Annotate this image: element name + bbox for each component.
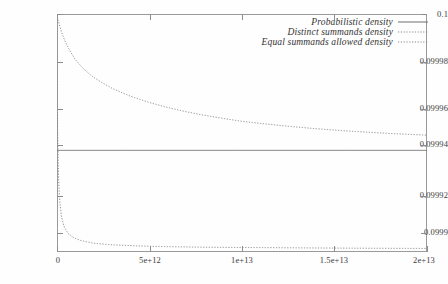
legend-entry-probabilistic-density: Probabilistic density [196, 17, 428, 27]
chart-curves [57, 14, 427, 252]
legend-entry-distinct-summands-density: Distinct summands density [196, 27, 428, 37]
chart-screenshot: 0.1 0.09998 0.09996 0.09994 0.09992 0.09… [0, 0, 448, 284]
x-tick-label-1: 5e+12 [139, 256, 161, 265]
legend-label-1: Distinct summands density [287, 27, 393, 37]
x-tick-label-3: 1.5e+13 [320, 256, 348, 265]
legend-line-sample-solid-icon [398, 18, 428, 26]
legend-label-0: Probabilistic density [311, 17, 393, 27]
x-tick-label-0: 0 [56, 256, 60, 265]
legend-line-sample-dotted-2-icon [398, 38, 428, 46]
x-tick-mark-4 [427, 246, 428, 252]
legend-line-sample-dotted-icon [398, 28, 428, 36]
legend-label-2: Equal summands allowed density [262, 37, 393, 47]
x-tick-label-4: 2e+13 [413, 256, 435, 265]
x-tick-label-2: 1e+13 [231, 256, 253, 265]
legend-entry-equal-summands-allowed-density: Equal summands allowed density [196, 37, 428, 47]
chart-legend: Probabilistic density Distinct summands … [196, 17, 428, 47]
series-equal-summands-allowed-density-line [57, 14, 427, 248]
